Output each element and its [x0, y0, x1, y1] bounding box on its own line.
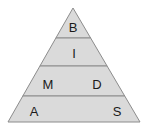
pyramid-diagram: BIMDAS — [0, 0, 147, 128]
pyramid-label-d: D — [92, 77, 101, 92]
pyramid-label-b: B — [69, 20, 78, 35]
pyramid-diagram-canvas: BIMDAS — [0, 0, 147, 128]
pyramid-label-i: I — [72, 46, 76, 61]
pyramid-label-m: M — [43, 77, 54, 92]
pyramid-label-s: S — [113, 104, 122, 119]
pyramid-label-a: A — [30, 104, 39, 119]
pyramid-tier-third — [23, 66, 125, 96]
